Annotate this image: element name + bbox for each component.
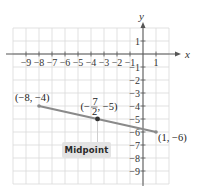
coordinate-plane: xy −9−8−7−6−5−4−3−2−111−1−2−3−4−5−6−7−8−… [0, 0, 202, 189]
y-tick-label: −7 [129, 140, 140, 151]
x-tick-label: −6 [60, 57, 71, 68]
y-tick-label: −8 [129, 153, 140, 164]
x-tick-label: −9 [21, 57, 32, 68]
endpoint-a-dot [37, 104, 41, 108]
midpoint-label-denominator: 2 [92, 106, 97, 117]
y-tick-label: 1 [135, 36, 140, 47]
midpoint-label-suffix: , −5) [98, 101, 118, 113]
grid-lines [13, 28, 169, 184]
y-tick-label: −3 [129, 88, 140, 99]
y-tick-label: −4 [129, 101, 140, 112]
midpoint-label-prefix: (− [81, 101, 90, 113]
x-axis-label: x [184, 48, 190, 60]
point-labels: (−8, −4)(1, −6)(−72, −5) [15, 92, 187, 144]
x-tick-label: −4 [86, 57, 97, 68]
x-tick-label: −7 [47, 57, 58, 68]
x-axis-arrow-icon [175, 52, 181, 57]
y-axis-label: y [138, 10, 144, 22]
endpoint-a-label: (−8, −4) [15, 92, 50, 104]
x-tick-label: −3 [99, 57, 110, 68]
midpoint-dot [95, 117, 100, 122]
x-tick-label: −2 [112, 57, 123, 68]
y-tick-label: −1 [129, 62, 140, 73]
x-tick-label: 1 [154, 57, 159, 68]
endpoint-b-label: (1, −6) [158, 132, 187, 144]
y-tick-label: −2 [129, 75, 140, 86]
midpoint-callout: Midpoint [62, 142, 111, 158]
y-tick-label: −5 [129, 114, 140, 125]
x-tick-label: −5 [73, 57, 84, 68]
y-tick-label: −9 [129, 166, 140, 177]
x-tick-label: −8 [34, 57, 45, 68]
y-axis-arrow-icon [141, 22, 146, 28]
